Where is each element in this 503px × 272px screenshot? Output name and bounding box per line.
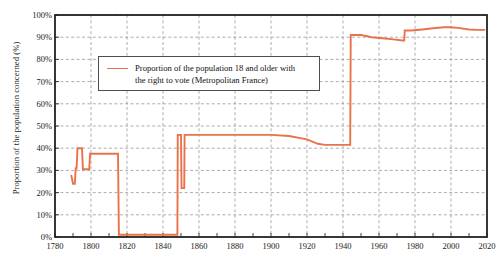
chart-legend: Proportion of the population 18 and olde… xyxy=(98,56,320,91)
x-tick-label: 1780 xyxy=(47,241,64,251)
x-tick-label: 1940 xyxy=(335,241,352,251)
voting-rights-chart: Proportion of the population concerned (… xyxy=(0,0,503,272)
x-tick-label: 1880 xyxy=(227,241,244,251)
x-tick-label: 1860 xyxy=(191,241,208,251)
x-tick-label: 1820 xyxy=(119,241,136,251)
legend-label-line1: Proportion of the population 18 and olde… xyxy=(135,63,295,73)
x-tick-label: 1980 xyxy=(407,241,424,251)
x-tick-label: 1840 xyxy=(155,241,172,251)
x-tick-label: 2000 xyxy=(443,241,460,251)
x-tick-label: 1920 xyxy=(299,241,316,251)
x-tick-label: 1900 xyxy=(263,241,280,251)
legend-line-swatch-icon xyxy=(107,68,128,69)
x-tick-label: 2020 xyxy=(479,241,496,251)
x-tick-label: 1960 xyxy=(371,241,388,251)
plot-area xyxy=(0,0,503,272)
x-tick-label: 1800 xyxy=(83,241,100,251)
legend-label-line2: the right to vote (Metropolitan France) xyxy=(135,75,268,85)
legend-label: Proportion of the population 18 and olde… xyxy=(135,62,295,86)
